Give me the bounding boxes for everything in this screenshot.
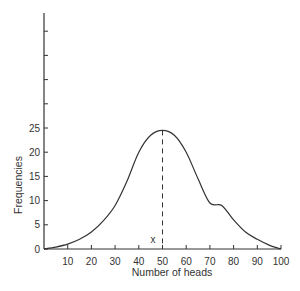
y-tick-label: 10: [29, 195, 41, 206]
x-tick-label: 10: [62, 256, 74, 267]
x-tick-label: 20: [86, 256, 98, 267]
plot-area: 0510152025 102030405060708090100 x Frequ…: [12, 13, 290, 278]
y-tick-label: 5: [34, 219, 40, 230]
y-tick-label: 15: [29, 171, 41, 182]
frequency-chart: 0510152025 102030405060708090100 x Frequ…: [0, 0, 300, 291]
x-tick-label: 100: [273, 256, 290, 267]
y-tick-label: 25: [29, 123, 41, 134]
x-tick-label: 90: [252, 256, 264, 267]
y-ticks: 0510152025: [29, 31, 48, 254]
y-tick-label: 20: [29, 147, 41, 158]
x-ticks: 102030405060708090100: [62, 245, 290, 267]
x-axis-title: Number of heads: [132, 266, 213, 278]
x-marker-label: x: [151, 234, 156, 245]
x-tick-label: 30: [110, 256, 122, 267]
y-tick-label: 0: [34, 244, 40, 255]
x-tick-label: 80: [228, 256, 240, 267]
y-axis-title: Frequencies: [12, 156, 24, 214]
